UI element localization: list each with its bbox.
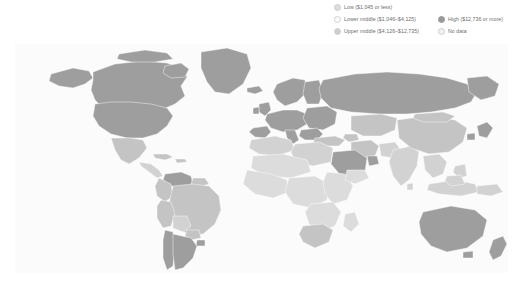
region-southeast-asia	[423, 154, 447, 178]
region-papua	[477, 184, 503, 196]
region-greenland	[201, 48, 251, 94]
circle-swatch-icon	[334, 16, 341, 23]
world-choropleth-map[interactable]	[15, 44, 508, 273]
circle-swatch-icon	[438, 16, 445, 23]
legend-item-label: Lower middle ($1,046–$4,125)	[344, 16, 416, 23]
region-japan	[477, 122, 493, 138]
region-mexico	[111, 138, 147, 164]
region-new-zealand	[489, 236, 507, 260]
legend-column-left: Low ($1,045 or less) Lower middle ($1,04…	[334, 2, 438, 38]
region-southern-africa	[299, 224, 333, 248]
region-canadian-arctic	[117, 50, 173, 62]
region-india	[389, 146, 419, 186]
region-madagascar	[343, 212, 359, 232]
region-south-korea	[467, 133, 475, 140]
legend-item-low[interactable]: Low ($1,045 or less)	[334, 2, 438, 13]
region-tasmania	[463, 251, 473, 258]
region-russia	[319, 72, 477, 114]
circle-swatch-icon	[334, 4, 341, 11]
legend-item-upper-middle[interactable]: Upper middle ($4,126–$12,735)	[334, 26, 438, 37]
region-uruguay	[196, 240, 205, 246]
region-caucasus	[343, 134, 359, 142]
region-gulf-states	[367, 156, 379, 166]
region-central-asia	[351, 114, 397, 136]
region-western-europe	[265, 110, 307, 132]
region-iceland	[247, 86, 263, 94]
region-united-states	[93, 102, 173, 138]
circle-swatch-icon	[334, 28, 341, 35]
region-iberia	[249, 126, 271, 138]
legend-column-right: High ($12,736 or more) No data	[438, 2, 520, 38]
region-australia	[419, 206, 487, 252]
legend-item-no-data[interactable]: No data	[438, 26, 520, 37]
circle-swatch-icon	[438, 28, 445, 35]
legend-item-high[interactable]: High ($12,736 or more)	[438, 14, 520, 25]
region-central-america	[139, 162, 163, 178]
region-sri-lanka	[407, 183, 413, 190]
legend-item-label: High ($12,736 or more)	[448, 16, 503, 23]
region-mongolia	[413, 112, 455, 122]
map-svg	[15, 44, 508, 273]
region-hispaniola	[175, 159, 187, 163]
region-eastern-europe	[303, 106, 337, 130]
map-legend: Low ($1,045 or less) Lower middle ($1,04…	[334, 2, 520, 40]
region-ireland	[253, 107, 259, 114]
region-scandinavia	[273, 78, 307, 106]
legend-item-label: No data	[448, 28, 467, 35]
legend-item-label: Low ($1,045 or less)	[344, 4, 392, 11]
legend-item-label: Upper middle ($4,126–$12,735)	[344, 28, 419, 35]
legend-item-lower-middle[interactable]: Lower middle ($1,046–$4,125)	[334, 14, 438, 25]
region-alaska	[49, 68, 93, 88]
region-cuba	[153, 154, 173, 160]
